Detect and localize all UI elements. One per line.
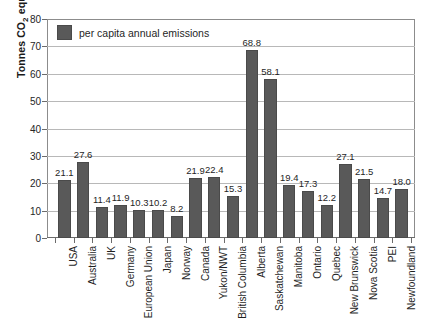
bar[interactable] xyxy=(283,185,295,238)
y-tick-label-40: 40 xyxy=(30,123,41,134)
x-axis-category-label: UK xyxy=(106,246,117,260)
x-axis-category-label: Saskatchewan xyxy=(274,246,285,311)
bar[interactable] xyxy=(58,180,70,238)
bar-value-label: 10.3 xyxy=(130,197,149,208)
bar-slot[interactable] xyxy=(339,164,351,238)
bar-value-label: 15.3 xyxy=(224,183,243,194)
y-tick-label-60: 60 xyxy=(30,68,41,79)
bar-slot[interactable] xyxy=(321,205,333,238)
bar-value-label: 21.1 xyxy=(55,167,74,178)
bar-slot[interactable] xyxy=(283,185,295,238)
bar[interactable] xyxy=(133,210,145,238)
bar[interactable] xyxy=(114,205,126,238)
x-axis-category-label: PEI xyxy=(387,246,398,262)
bar-chart: Tonnes CO2 equivalents 01020304050607080… xyxy=(0,0,440,327)
bar-slot[interactable] xyxy=(114,205,126,238)
bar-value-label: 27.1 xyxy=(336,151,355,162)
x-tick-mark xyxy=(299,238,300,243)
bar[interactable] xyxy=(208,177,220,238)
y-axis-title-subscript: 2 xyxy=(21,17,30,22)
x-tick-mark xyxy=(392,238,393,243)
bar[interactable] xyxy=(339,164,351,238)
legend: per capita annual emissions xyxy=(57,25,209,40)
bar-slot[interactable] xyxy=(227,196,239,238)
bar-slot[interactable] xyxy=(302,191,314,238)
bar-value-label: 27.6 xyxy=(74,149,93,160)
bar-value-label: 58.1 xyxy=(261,66,280,77)
x-axis-category-label: Newfoundland xyxy=(406,246,417,310)
x-tick-mark xyxy=(242,238,243,243)
bar[interactable] xyxy=(77,162,89,238)
bar[interactable] xyxy=(264,79,276,238)
bar-slot[interactable] xyxy=(58,180,70,238)
bar[interactable] xyxy=(227,196,239,238)
x-tick-mark xyxy=(167,238,168,243)
y-tick-label-20: 20 xyxy=(30,178,41,189)
x-axis-category-label: Alberta xyxy=(256,246,267,278)
x-axis-category-label: Nova Scotia xyxy=(368,246,379,300)
bar-slot[interactable] xyxy=(152,210,164,238)
bar-slot[interactable] xyxy=(208,177,220,238)
bar[interactable] xyxy=(302,191,314,238)
bar-slot[interactable] xyxy=(133,210,145,238)
legend-swatch-icon xyxy=(57,25,72,40)
x-axis-category-label: Australia xyxy=(87,246,98,285)
bar-slot[interactable] xyxy=(189,178,201,238)
y-tick-label-10: 10 xyxy=(30,205,41,216)
y-tick-mark-0 xyxy=(42,238,47,239)
x-tick-mark xyxy=(111,238,112,243)
x-tick-mark xyxy=(149,238,150,243)
bar[interactable] xyxy=(246,50,258,238)
plot-area: 01020304050607080 21.1USA27.6Australia11… xyxy=(47,19,415,238)
x-tick-mark xyxy=(55,238,56,243)
x-tick-mark xyxy=(224,238,225,243)
bar[interactable] xyxy=(152,210,164,238)
y-axis-title-prefix: Tonnes CO xyxy=(15,22,27,78)
bar-slot[interactable] xyxy=(77,162,89,238)
x-axis-category-label: Japan xyxy=(162,246,173,273)
x-tick-mark xyxy=(411,238,412,243)
x-axis-category-label: Germany xyxy=(125,246,136,287)
x-tick-mark xyxy=(374,238,375,243)
x-tick-mark xyxy=(317,238,318,243)
bar-slot[interactable] xyxy=(246,50,258,238)
bar[interactable] xyxy=(189,178,201,238)
x-tick-mark xyxy=(355,238,356,243)
legend-label: per capita annual emissions xyxy=(79,27,209,39)
bar-slot[interactable] xyxy=(377,198,389,238)
bar-value-label: 11.9 xyxy=(112,192,130,203)
bar-value-label: 10.2 xyxy=(149,197,168,208)
bars-group: 21.1USA27.6Australia11.4UK11.9Germany10.… xyxy=(47,19,415,238)
bar[interactable] xyxy=(171,216,183,238)
x-tick-mark xyxy=(92,238,93,243)
bar-slot[interactable] xyxy=(358,179,370,238)
bar-value-label: 68.8 xyxy=(242,37,261,48)
bar-slot[interactable] xyxy=(171,216,183,238)
bar[interactable] xyxy=(321,205,333,238)
x-tick-mark xyxy=(74,238,75,243)
y-tick-label-30: 30 xyxy=(30,150,41,161)
bar[interactable] xyxy=(96,207,108,238)
y-axis-title: Tonnes CO2 equivalents xyxy=(15,0,29,78)
x-tick-mark xyxy=(280,238,281,243)
y-tick-label-70: 70 xyxy=(30,41,41,52)
x-tick-mark xyxy=(205,238,206,243)
x-axis-category-label: New Brunswick xyxy=(349,246,360,314)
bar-value-label: 14.7 xyxy=(374,185,393,196)
x-axis-category-label: Yukon/NWT xyxy=(218,246,229,299)
bar-slot[interactable] xyxy=(264,79,276,238)
bar-value-label: 22.4 xyxy=(205,164,224,175)
chart-title-cutoff xyxy=(70,0,410,3)
bar[interactable] xyxy=(395,189,407,238)
x-axis-category-label: European Union xyxy=(143,246,154,318)
bar-slot[interactable] xyxy=(395,189,407,238)
bar-value-label: 18.0 xyxy=(392,176,411,187)
bar[interactable] xyxy=(377,198,389,238)
x-axis-category-label: Manitoba xyxy=(293,246,304,287)
bar[interactable] xyxy=(358,179,370,238)
bar-slot[interactable] xyxy=(96,207,108,238)
x-axis-category-label: Ontario xyxy=(312,246,323,279)
bar-value-label: 19.4 xyxy=(280,172,299,183)
x-tick-mark xyxy=(336,238,337,243)
x-axis-category-label: Norway xyxy=(181,246,192,280)
